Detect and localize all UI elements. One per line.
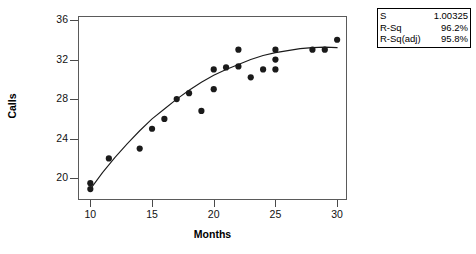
x-axis-tick-label: 20: [199, 209, 229, 220]
data-point: [211, 86, 217, 92]
statistic-value: 96.2%: [441, 22, 468, 34]
data-point: [235, 63, 241, 69]
statistic-label: R-Sq(adj): [380, 33, 425, 45]
data-point: [211, 66, 217, 72]
data-point: [272, 56, 278, 62]
y-axis-tick-label: 28: [28, 93, 68, 104]
data-point: [223, 64, 229, 70]
data-point: [322, 47, 328, 53]
statistic-label: S: [380, 10, 390, 22]
y-axis-tick: [70, 139, 78, 140]
data-point: [248, 74, 254, 80]
x-axis-tick: [337, 200, 338, 207]
data-point: [186, 90, 192, 96]
chart-page: 2024283236 1015202530 Months Calls S1.00…: [0, 0, 476, 254]
x-axis-tick-label: 25: [260, 209, 290, 220]
y-axis-tick-label: 24: [28, 133, 68, 144]
y-axis-tick-label: 20: [28, 172, 68, 183]
x-axis-tick-label: 10: [75, 209, 105, 220]
y-axis-tick: [70, 178, 78, 179]
x-axis-tick: [275, 200, 276, 207]
data-point: [161, 116, 167, 122]
y-axis-title: Calls: [6, 71, 18, 141]
y-axis-tick-label: 32: [28, 54, 68, 65]
data-point: [87, 180, 93, 186]
x-axis-tick: [214, 200, 215, 207]
data-point: [106, 155, 112, 161]
y-axis-tick: [70, 60, 78, 61]
data-point: [149, 126, 155, 132]
data-point: [272, 66, 278, 72]
x-axis-tick-label: 30: [322, 209, 352, 220]
statistics-row: R-Sq(adj)95.8%: [380, 33, 468, 45]
data-point: [272, 47, 278, 53]
statistic-value: 1.00325: [434, 10, 468, 22]
plot-data-layer: [78, 16, 347, 200]
x-axis-title: Months: [78, 228, 347, 240]
data-point-group: [87, 37, 340, 193]
statistics-row: R-Sq96.2%: [380, 22, 468, 34]
x-axis-tick: [152, 200, 153, 207]
statistics-box: S1.00325R-Sq96.2%R-Sq(adj)95.8%: [377, 8, 471, 48]
data-point: [198, 108, 204, 114]
y-axis-tick: [70, 99, 78, 100]
x-axis-tick-label: 15: [137, 209, 167, 220]
data-point: [174, 96, 180, 102]
data-point: [87, 186, 93, 192]
statistic-value: 95.8%: [441, 33, 468, 45]
data-point: [334, 37, 340, 43]
data-point: [235, 47, 241, 53]
scatterplot-figure: 2024283236 1015202530 Months Calls: [0, 0, 352, 254]
statistics-row: S1.00325: [380, 10, 468, 22]
statistic-label: R-Sq: [380, 22, 406, 34]
data-point: [137, 145, 143, 151]
x-axis-tick: [90, 200, 91, 207]
y-axis-tick-label: 36: [28, 14, 68, 25]
data-point: [260, 66, 266, 72]
y-axis-tick: [70, 20, 78, 21]
data-point: [309, 47, 315, 53]
